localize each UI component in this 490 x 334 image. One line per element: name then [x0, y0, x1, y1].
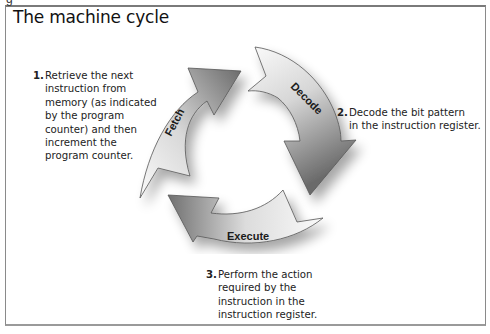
step-2-description: 2. Decode the bit pattern in the instruc…: [349, 106, 481, 133]
step-1-line: increment the: [45, 136, 157, 149]
step-3-number: 3.: [206, 268, 217, 281]
step-1-line: Retrieve the next: [45, 69, 157, 82]
step-1-number: 1.: [33, 69, 44, 82]
step-1-line: instruction from: [45, 82, 157, 95]
step-3-line: Perform the action: [218, 268, 317, 281]
step-1-line: by the program: [45, 109, 157, 122]
step-3-line: instruction register.: [218, 308, 317, 321]
step-1-description: 1. Retrieve the next instruction from me…: [45, 69, 157, 163]
step-3-line: instruction in the: [218, 295, 317, 308]
step-2-line: in the instruction register.: [349, 119, 481, 132]
decode-arrow: [248, 47, 356, 195]
step-1-line: memory (as indicated: [45, 96, 157, 109]
step-1-line: program counter.: [45, 149, 157, 162]
execute-label: Execute: [227, 230, 269, 242]
step-3-description: 3. Perform the action required by the in…: [218, 268, 317, 322]
step-2-line: Decode the bit pattern: [349, 106, 481, 119]
step-2-number: 2.: [337, 106, 348, 119]
step-3-line: required by the: [218, 281, 317, 294]
step-1-line: counter) and then: [45, 123, 157, 136]
